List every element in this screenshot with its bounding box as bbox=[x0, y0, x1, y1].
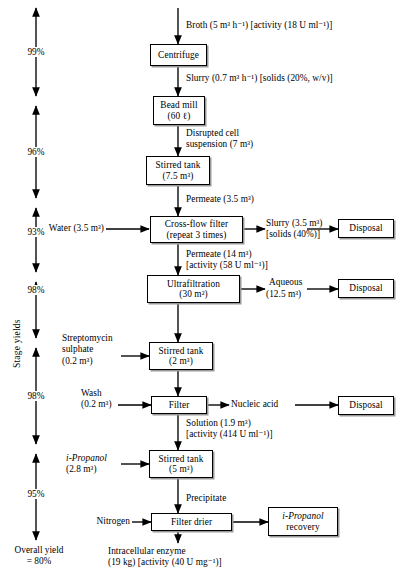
stage-yield-5: 98% bbox=[16, 391, 56, 401]
node-cross-flow-filter[interactable]: Cross-flow filter (repeat 3 times) bbox=[150, 216, 243, 243]
stream-nitrogen: Nitrogen bbox=[72, 516, 130, 527]
node-ultrafiltration-label: Ultrafiltration bbox=[167, 279, 220, 290]
node-stirred-tank-1-label: Stirred tank bbox=[156, 160, 201, 171]
stream-solution-line2: [activity (414 U ml⁻¹)] bbox=[186, 429, 273, 440]
node-cross-flow-filter-label: Cross-flow filter bbox=[165, 219, 228, 230]
stream-water-in: Water (3.5 m³) bbox=[28, 223, 104, 234]
node-disposal-2[interactable]: Disposal bbox=[338, 279, 394, 298]
stream-slurry-cff-line1: Slurry (3.5 m³) bbox=[266, 218, 322, 229]
node-ultrafiltration-area: (30 m²) bbox=[179, 289, 208, 300]
stream-wash-line2: (0.2 m³) bbox=[81, 399, 112, 410]
node-stirred-tank-1-capacity: (7.5 m³) bbox=[163, 171, 194, 182]
stream-streptomycin-line1: Streptomycin bbox=[62, 333, 113, 344]
stage-yields-axis-label: Stage yields bbox=[12, 319, 22, 368]
node-stirred-tank-2[interactable]: Stirred tank (2 m³) bbox=[149, 342, 213, 370]
node-disposal-3[interactable]: Disposal bbox=[338, 396, 394, 415]
node-bead-mill-label: Bead mill bbox=[160, 100, 197, 111]
stream-solution-line1: Solution (1.9 m³) bbox=[186, 418, 251, 429]
stream-propanol-in-line1: i-Propanol bbox=[66, 453, 107, 464]
node-disposal-1[interactable]: Disposal bbox=[338, 219, 394, 238]
overall-yield-value: = 80% bbox=[27, 556, 52, 566]
overall-yield: Overall yield = 80% bbox=[0, 545, 78, 567]
node-disposal-2-label: Disposal bbox=[349, 283, 382, 294]
stage-yield-6: 95% bbox=[16, 489, 56, 499]
stream-aqueous-line2: (12.5 m³) bbox=[266, 289, 301, 300]
stream-disrupted-cell-line1: Disrupted cell bbox=[186, 128, 239, 139]
stream-broth: Broth (5 m³ h⁻¹) [activity (18 U ml⁻¹)] bbox=[186, 20, 332, 31]
node-bead-mill-capacity: (60 ℓ) bbox=[168, 111, 191, 122]
node-cross-flow-filter-note: (repeat 3 times) bbox=[167, 230, 227, 241]
stream-slurry-cff-line2: [solids (40%)] bbox=[266, 229, 320, 240]
stream-permeate-big-line2: [activity (58 U ml⁻¹)] bbox=[186, 260, 268, 271]
stream-slurry-centrifuge: Slurry (0.7 m³ h⁻¹) [solids (20%, w/v)] bbox=[186, 73, 333, 84]
stage-yield-4: 98% bbox=[16, 285, 56, 295]
stream-wash-line1: Wash bbox=[81, 388, 102, 399]
node-filter[interactable]: Filter bbox=[151, 396, 207, 414]
stream-nucleic-acid: Nucleic acid bbox=[231, 399, 278, 410]
stream-disrupted-cell-line2: suspension (7 m³) bbox=[186, 139, 253, 150]
node-filter-drier[interactable]: Filter drier bbox=[151, 513, 232, 531]
node-disposal-1-label: Disposal bbox=[349, 223, 382, 234]
node-stirred-tank-2-capacity: (2 m³) bbox=[169, 356, 193, 367]
node-stirred-tank-1[interactable]: Stirred tank (7.5 m³) bbox=[146, 156, 210, 185]
stream-product-line1: Intracellular enzyme bbox=[108, 546, 186, 557]
stream-precipitate: Precipitate bbox=[186, 493, 226, 504]
node-filter-drier-label: Filter drier bbox=[171, 517, 212, 528]
node-filter-label: Filter bbox=[169, 400, 190, 411]
node-stirred-tank-3-capacity: (5 m³) bbox=[169, 464, 193, 475]
stream-propanol-in-line2: (2.8 m³) bbox=[66, 464, 97, 475]
node-propanol-recovery-label: i-Propanol bbox=[282, 511, 323, 522]
node-stirred-tank-3[interactable]: Stirred tank (5 m³) bbox=[149, 450, 213, 478]
node-disposal-3-label: Disposal bbox=[349, 400, 382, 411]
process-flow-diagram: Stage yields 99% 96% 93% 98% 98% 95% Ove… bbox=[0, 0, 404, 572]
stream-permeate-small: Permeate (3.5 m³) bbox=[186, 194, 254, 205]
overall-yield-label: Overall yield bbox=[15, 545, 64, 555]
stream-product-line2: (19 kg) [activity (40 U mg⁻¹)] bbox=[108, 557, 222, 568]
node-stirred-tank-2-label: Stirred tank bbox=[159, 346, 204, 357]
node-stirred-tank-3-label: Stirred tank bbox=[159, 454, 204, 465]
node-ultrafiltration[interactable]: Ultrafiltration (30 m²) bbox=[147, 275, 240, 303]
stream-aqueous-line1: Aqueous bbox=[269, 277, 302, 288]
node-propanol-recovery-sub: recovery bbox=[286, 522, 319, 533]
stage-yield-2: 96% bbox=[16, 147, 56, 157]
stream-streptomycin-line3: (0.2 m³) bbox=[62, 356, 93, 367]
node-centrifuge[interactable]: Centrifuge bbox=[150, 44, 207, 66]
stream-streptomycin-line2: sulphate bbox=[62, 344, 93, 355]
node-propanol-recovery[interactable]: i-Propanol recovery bbox=[268, 507, 338, 536]
stream-permeate-big-line1: Permeate (14 m³) bbox=[186, 249, 252, 260]
stage-yield-1: 99% bbox=[16, 47, 56, 57]
node-bead-mill[interactable]: Bead mill (60 ℓ) bbox=[153, 96, 205, 125]
node-centrifuge-label: Centrifuge bbox=[158, 50, 199, 61]
